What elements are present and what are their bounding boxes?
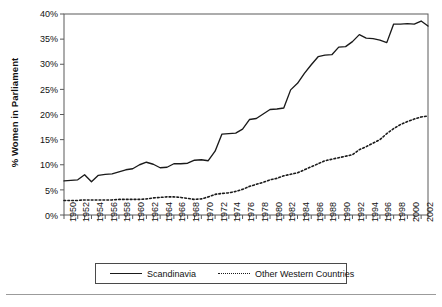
x-tick-label: 1950: [68, 202, 78, 222]
plot-border: [64, 14, 428, 215]
x-tick-label: 1978: [260, 202, 270, 222]
x-tick-label: 1988: [328, 202, 338, 222]
x-tick-label: 1970: [205, 202, 215, 222]
x-tick-label: 1982: [287, 202, 297, 222]
legend-line-solid-icon: [110, 269, 142, 278]
x-tick-label: 1972: [219, 202, 229, 222]
x-tick-label: 1974: [232, 202, 242, 222]
x-tick-label: 1968: [191, 202, 201, 222]
x-tick-label: 1994: [370, 202, 380, 222]
legend-entry-other-western-countries: Other Western Countries: [218, 264, 354, 283]
x-tick-label: 1996: [383, 202, 393, 222]
x-tick-label: 1958: [122, 202, 132, 222]
x-tick-label: 1984: [301, 202, 311, 222]
x-tick-label: 1986: [315, 202, 325, 222]
x-tick-label: 2000: [411, 202, 421, 222]
chart-legend: Scandinavia Other Western Countries: [95, 263, 347, 284]
plot-frame: [64, 14, 428, 215]
chart-figure: % Women in Parliament 40% 35% 30% 25% 20…: [0, 0, 442, 307]
x-tick-label: 1960: [136, 202, 146, 222]
y-axis-ticks: [60, 14, 64, 215]
x-tick-label: 1966: [177, 202, 187, 222]
legend-line-dotted-icon: [218, 269, 250, 278]
x-tick-label: 1956: [109, 202, 119, 222]
x-tick-label: 2002: [425, 202, 435, 222]
x-tick-label: 1964: [164, 202, 174, 222]
x-tick-label: 1954: [95, 202, 105, 222]
x-tick-label: 1990: [342, 202, 352, 222]
x-tick-label: 1976: [246, 202, 256, 222]
x-tick-label: 1998: [397, 202, 407, 222]
x-tick-label: 1952: [81, 202, 91, 222]
legend-label: Scandinavia: [147, 269, 196, 279]
legend-entry-scandinavia: Scandinavia: [110, 264, 196, 283]
footer-divider: [6, 294, 436, 295]
legend-label: Other Western Countries: [255, 269, 354, 279]
x-tick-label: 1980: [274, 202, 284, 222]
x-tick-label: 1992: [356, 202, 366, 222]
x-tick-label: 1962: [150, 202, 160, 222]
plot-area: [0, 0, 442, 307]
